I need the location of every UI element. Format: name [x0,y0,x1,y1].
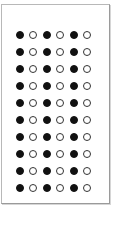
filled-circle-icon [43,116,51,124]
open-circle-icon [29,99,37,107]
filled-circle-icon [16,82,24,90]
open-circle-icon [29,65,37,73]
filled-circle-icon [43,184,51,192]
open-circle-icon [56,99,64,107]
dot-row [16,162,96,179]
open-circle-icon [29,184,37,192]
filled-circle-icon [70,31,78,39]
filled-circle-icon [43,150,51,158]
open-circle-icon [56,31,64,39]
filled-circle-icon [16,48,24,56]
filled-circle-icon [16,31,24,39]
filled-circle-icon [70,133,78,141]
filled-circle-icon [70,82,78,90]
filled-circle-icon [70,184,78,192]
filled-circle-icon [70,99,78,107]
open-circle-icon [56,48,64,56]
filled-circle-icon [16,184,24,192]
open-circle-icon [29,48,37,56]
filled-circle-icon [16,133,24,141]
dot-row [16,43,96,60]
filled-circle-icon [43,31,51,39]
filled-circle-icon [16,116,24,124]
dot-row [16,77,96,94]
open-circle-icon [83,82,91,90]
open-circle-icon [83,150,91,158]
filled-circle-icon [16,65,24,73]
filled-circle-icon [43,82,51,90]
open-circle-icon [83,184,91,192]
filled-circle-icon [43,65,51,73]
dot-row [16,111,96,128]
filled-circle-icon [16,167,24,175]
dot-row [16,179,96,196]
open-circle-icon [83,99,91,107]
filled-circle-icon [43,167,51,175]
open-circle-icon [29,116,37,124]
filled-circle-icon [43,48,51,56]
open-circle-icon [83,133,91,141]
open-circle-icon [56,82,64,90]
open-circle-icon [56,133,64,141]
open-circle-icon [29,31,37,39]
filled-circle-icon [70,48,78,56]
open-circle-icon [29,167,37,175]
open-circle-icon [56,116,64,124]
open-circle-icon [56,65,64,73]
open-circle-icon [29,133,37,141]
open-circle-icon [56,184,64,192]
open-circle-icon [56,167,64,175]
dot-row [16,60,96,77]
filled-circle-icon [70,65,78,73]
dot-row [16,26,96,43]
open-circle-icon [83,65,91,73]
filled-circle-icon [70,116,78,124]
open-circle-icon [83,116,91,124]
dot-grid [16,26,96,196]
filled-circle-icon [43,133,51,141]
open-circle-icon [83,31,91,39]
open-circle-icon [83,48,91,56]
filled-circle-icon [16,99,24,107]
filled-circle-icon [43,99,51,107]
dot-row [16,94,96,111]
open-circle-icon [29,150,37,158]
filled-circle-icon [16,150,24,158]
dot-row [16,128,96,145]
filled-circle-icon [70,150,78,158]
open-circle-icon [29,82,37,90]
open-circle-icon [83,167,91,175]
dot-row [16,145,96,162]
filled-circle-icon [70,167,78,175]
open-circle-icon [56,150,64,158]
